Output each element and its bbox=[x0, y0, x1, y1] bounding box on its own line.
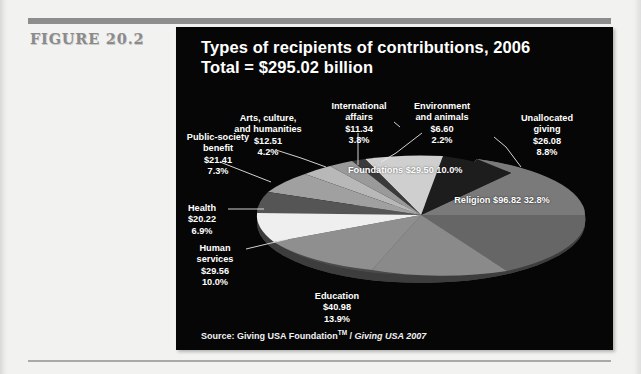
page-edge-right bbox=[631, 0, 641, 374]
page-edge-left bbox=[0, 0, 8, 374]
label-health-amount: $20.22 bbox=[176, 214, 230, 225]
figure-page: FIGURE 20.2 Types of recipients of contr… bbox=[0, 0, 641, 374]
label-public-society-benefit: Public-society benefit $21.41 7.3% bbox=[176, 132, 268, 178]
source-separator: / bbox=[347, 331, 355, 341]
label-international-percent: 3.8% bbox=[315, 135, 403, 146]
label-health: Health $20.22 6.9% bbox=[176, 203, 230, 237]
label-health-percent: 6.9% bbox=[176, 226, 230, 237]
source-publication: Giving USA 2007 bbox=[355, 331, 427, 341]
label-foundations-percent: 10.0% bbox=[436, 165, 462, 175]
label-unallocated-giving: Unallocated giving $26.08 8.8% bbox=[499, 113, 595, 159]
label-public-society-amount: $21.41 bbox=[176, 155, 268, 166]
figure-number-label: FIGURE 20.2 bbox=[30, 30, 144, 47]
label-unallocated-name-line1: Unallocated bbox=[499, 113, 595, 124]
label-unallocated-amount: $26.08 bbox=[499, 136, 595, 147]
label-religion-name: Religion bbox=[454, 195, 490, 205]
label-public-society-name-line2: benefit bbox=[176, 143, 268, 154]
top-rule bbox=[28, 18, 611, 24]
label-environment-animals: Environment and animals $6.60 2.2% bbox=[397, 101, 487, 147]
label-international-name-line2: affairs bbox=[315, 112, 403, 123]
chart-source: Source: Giving USA FoundationTM / Giving… bbox=[201, 329, 426, 341]
label-health-name: Health bbox=[176, 203, 230, 214]
label-human-services-name-line1: Human bbox=[184, 243, 246, 254]
label-foundations-amount: $29.50 bbox=[406, 165, 434, 175]
label-human-services-percent: 10.0% bbox=[184, 277, 246, 288]
pie-chart-graphic bbox=[176, 27, 613, 350]
label-human-services-name-line2: services bbox=[184, 254, 246, 265]
label-religion: Religion $96.82 32.8% bbox=[454, 195, 550, 206]
label-international-amount: $11.34 bbox=[315, 124, 403, 135]
label-human-services-amount: $29.56 bbox=[184, 266, 246, 277]
label-unallocated-name-line2: giving bbox=[499, 124, 595, 135]
label-public-society-name-line1: Public-society bbox=[176, 132, 268, 143]
label-international-name-line1: International bbox=[315, 101, 403, 112]
label-education-name: Education bbox=[292, 291, 382, 302]
bottom-rule bbox=[28, 360, 611, 362]
label-foundations: Foundations $29.50 10.0% bbox=[348, 165, 458, 176]
label-arts-name-line1: Arts, culture, bbox=[208, 113, 328, 124]
label-international-affairs: International affairs $11.34 3.8% bbox=[315, 101, 403, 147]
label-education: Education $40.98 13.9% bbox=[292, 291, 382, 325]
label-religion-amount: $96.82 bbox=[493, 195, 521, 205]
source-trademark: TM bbox=[338, 329, 347, 336]
label-environment-amount: $6.60 bbox=[397, 124, 487, 135]
label-education-percent: 13.9% bbox=[292, 314, 382, 325]
label-human-services: Human services $29.56 10.0% bbox=[184, 243, 246, 289]
label-public-society-percent: 7.3% bbox=[176, 166, 268, 177]
label-environment-percent: 2.2% bbox=[397, 135, 487, 146]
label-environment-name-line2: and animals bbox=[397, 112, 487, 123]
chart-panel: Types of recipients of contributions, 20… bbox=[176, 27, 613, 350]
label-education-amount: $40.98 bbox=[292, 302, 382, 313]
label-foundations-name: Foundations bbox=[348, 165, 403, 175]
label-unallocated-percent: 8.8% bbox=[499, 147, 595, 158]
label-environment-name-line1: Environment bbox=[397, 101, 487, 112]
source-prefix: Source: Giving USA Foundation bbox=[201, 331, 338, 341]
label-religion-percent: 32.8% bbox=[524, 195, 550, 205]
